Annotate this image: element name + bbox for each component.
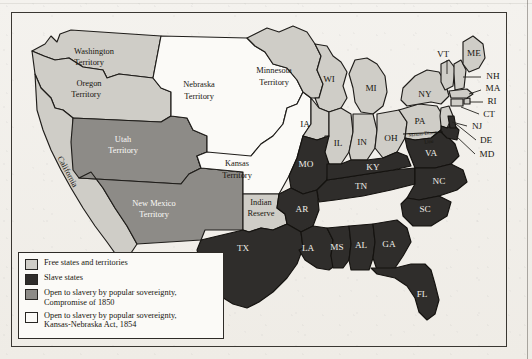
map-page: .free{fill:#cfcdc7;stroke:#1f1d1a;stroke… xyxy=(0,0,532,359)
legend-swatch-compromise-1850 xyxy=(25,289,38,300)
legend-item-kansas-nebraska-1854[interactable]: Open to slavery by popular sovereignty, … xyxy=(25,311,217,330)
map-legend: Free states and territories Slave states… xyxy=(18,252,224,339)
legend-item-slave[interactable]: Slave states xyxy=(25,273,217,285)
legend-label-slave: Slave states xyxy=(44,273,83,283)
legend-swatch-kansas-nebraska-1854 xyxy=(25,312,38,323)
legend-swatch-slave xyxy=(25,274,38,285)
legend-label-compromise-1850: Open to slavery by popular sovereignty, … xyxy=(44,288,177,307)
page-rule-right xyxy=(527,0,528,359)
legend-item-free[interactable]: Free states and territories xyxy=(25,258,217,270)
legend-item-compromise-1850[interactable]: Open to slavery by popular sovereignty, … xyxy=(25,288,217,307)
page-rule-top xyxy=(0,3,532,4)
legend-swatch-free xyxy=(25,259,38,270)
legend-label-kansas-nebraska-1854: Open to slavery by popular sovereignty, … xyxy=(44,311,177,330)
legend-label-free: Free states and territories xyxy=(44,258,128,268)
